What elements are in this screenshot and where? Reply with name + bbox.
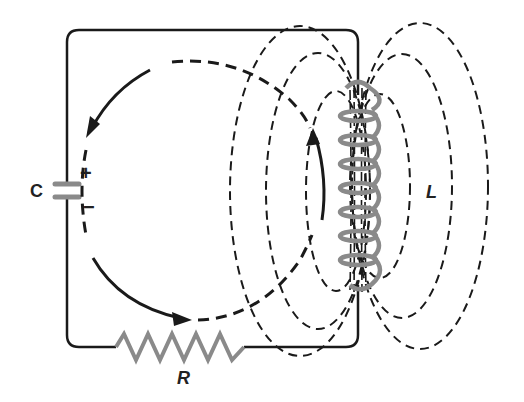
wire-right-bottom	[244, 285, 358, 347]
capacitor-minus-sign: −	[83, 196, 95, 218]
current-arrow-top-left	[92, 70, 150, 128]
capacitor-label: C	[30, 181, 43, 201]
current-arrowheads	[86, 116, 320, 326]
capacitor	[55, 184, 79, 197]
resistor-label: R	[177, 368, 190, 388]
arrowhead-up	[306, 128, 320, 146]
wire-left-bottom	[67, 197, 116, 347]
field-line-right-middle	[352, 54, 452, 318]
lc-circuit-diagram: C + − R L	[0, 0, 524, 402]
current-arrow-bottom-left	[93, 258, 180, 318]
current-dashed-bottom	[198, 235, 312, 320]
arrowhead-right	[172, 312, 192, 326]
circuit-wires	[67, 30, 358, 347]
current-dashed-top	[172, 61, 310, 128]
resistor-zigzag	[116, 334, 244, 360]
current-arrow-right	[316, 138, 324, 220]
inductor-label: L	[426, 182, 437, 202]
current-flow-loop	[82, 61, 324, 320]
